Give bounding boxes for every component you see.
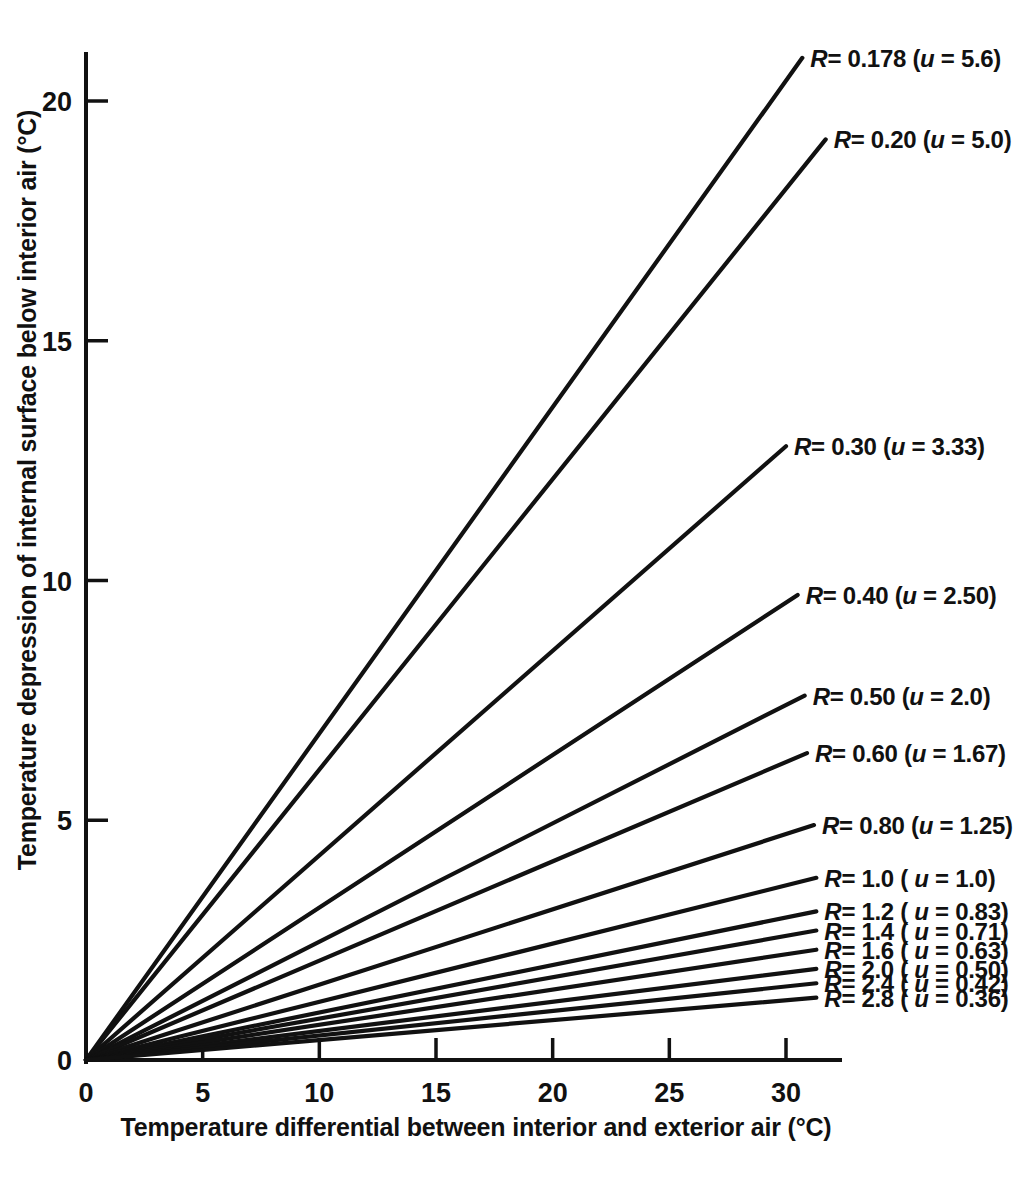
series-label-7: R= 1.0 ( u = 1.0) — [824, 865, 995, 892]
series-label-1: R= 0.20 (u = 5.0) — [834, 126, 1012, 153]
x-tick-label-10: 10 — [304, 1078, 334, 1108]
series-label-4: R= 0.50 (u = 2.0) — [813, 683, 991, 710]
series-label-5: R= 0.60 (u = 1.67) — [815, 740, 1006, 767]
series-line-6 — [86, 825, 814, 1060]
y-axis-tick-labels: 05101520 — [42, 87, 72, 1076]
chart-figure: 05101520 051015202530 R= 0.178 (u = 5.6)… — [0, 0, 1027, 1182]
x-tick-label-5: 5 — [195, 1078, 210, 1108]
y-tick-label-10: 10 — [42, 567, 72, 597]
axes-group — [86, 54, 840, 1062]
series-label-13: R= 2.8 ( u = 0.36) — [824, 985, 1008, 1012]
series-line-8 — [86, 911, 816, 1060]
series-line-1 — [86, 139, 826, 1060]
series-label-0: R= 0.178 (u = 5.6) — [810, 45, 1001, 72]
x-axis-title: Temperature differential between interio… — [121, 1113, 832, 1141]
series-line-13 — [86, 998, 816, 1060]
x-tick-label-20: 20 — [538, 1078, 568, 1108]
series-line-3 — [86, 595, 798, 1060]
series-label-2: R= 0.30 (u = 3.33) — [794, 433, 985, 460]
series-label-3: R= 0.40 (u = 2.50) — [806, 582, 997, 609]
series-labels-group: R= 0.178 (u = 5.6)R= 0.20 (u = 5.0)R= 0.… — [794, 45, 1013, 1012]
x-tick-label-25: 25 — [654, 1078, 684, 1108]
y-tick-label-0: 0 — [57, 1046, 72, 1076]
line-chart: 05101520 051015202530 R= 0.178 (u = 5.6)… — [0, 0, 1027, 1182]
x-tick-label-0: 0 — [78, 1078, 93, 1108]
series-line-2 — [86, 446, 786, 1060]
x-axis-tick-labels: 051015202530 — [78, 1078, 801, 1108]
y-axis-ticks — [86, 101, 108, 820]
x-tick-label-30: 30 — [771, 1078, 801, 1108]
series-lines-group — [86, 58, 826, 1060]
y-tick-label-15: 15 — [42, 327, 72, 357]
series-label-6: R= 0.80 (u = 1.25) — [822, 812, 1013, 839]
y-tick-label-5: 5 — [57, 806, 72, 836]
y-axis-title: Temperature depression of internal surfa… — [13, 110, 41, 870]
y-tick-label-20: 20 — [42, 87, 72, 117]
x-tick-label-15: 15 — [421, 1078, 451, 1108]
